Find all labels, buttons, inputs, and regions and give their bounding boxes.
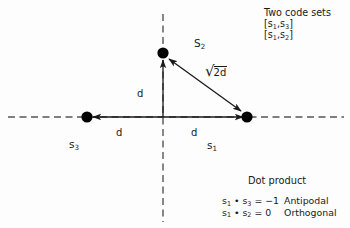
point-label-s2-symbol: S	[194, 37, 201, 49]
distance-label-diagonal: √ 2d	[205, 66, 227, 78]
distance-label-vertical: d	[137, 88, 143, 99]
code-set-two-close: ]	[289, 29, 293, 40]
dot-product-row: s1 • s2 = 0 Orthogonal	[222, 208, 337, 219]
code-set-one-close: ]	[289, 18, 293, 29]
code-set-two-sub-a: 1	[273, 34, 277, 42]
dot-product-title: Dot product	[248, 176, 306, 187]
dot-product-right-subscript: 3	[247, 200, 251, 208]
point-label-s1: s1	[207, 140, 217, 152]
distance-label-right: d	[191, 127, 197, 138]
point-s1	[241, 111, 252, 122]
dot-product-expression: s1 • s3 = −1	[222, 196, 284, 207]
dot-operator-icon: •	[234, 207, 240, 218]
code-set-two-mid: ,s	[277, 29, 285, 40]
dot-product-expression: s1 • s2 = 0	[222, 208, 284, 219]
code-sets-annotation: Two code sets [s1,s3] [s1,s2]	[264, 8, 331, 42]
code-set-one-mid: ,s	[277, 18, 285, 29]
code-set-one-sub-a: 1	[273, 23, 277, 31]
point-s2	[157, 47, 168, 58]
constellation-diagram: d d d √ 2d S2 s1 s3 Two code sets [s1,s3…	[0, 0, 350, 228]
code-set-one-sub-b: 3	[285, 23, 289, 31]
point-label-s2-subscript: 2	[201, 42, 206, 51]
dot-product-value: = 0	[254, 207, 271, 218]
dot-operator-icon: •	[234, 195, 240, 206]
dot-product-rows: s1 • s3 = −1 Antipodal s1 • s2 = 0 Ortho…	[222, 196, 337, 219]
code-sets-title: Two code sets	[264, 8, 331, 19]
dot-product-kind: Orthogonal	[284, 208, 337, 219]
code-set-two: [s1,s2]	[264, 30, 331, 41]
point-label-s3-subscript: 3	[74, 143, 79, 152]
dot-product-kind: Antipodal	[284, 196, 329, 207]
code-set-two-open: [s	[264, 29, 273, 40]
distance-label-left: d	[116, 127, 122, 138]
code-set-one: [s1,s3]	[264, 19, 331, 30]
point-label-s1-subscript: 1	[212, 144, 217, 153]
dot-product-left-subscript: 1	[227, 211, 231, 219]
point-label-s2: S2	[194, 38, 205, 50]
dot-product-value: = −1	[254, 195, 279, 206]
point-label-s3: s3	[69, 139, 79, 151]
dot-product-left-subscript: 1	[227, 200, 231, 208]
radical-body: 2d	[214, 66, 228, 78]
dot-product-row: s1 • s3 = −1 Antipodal	[222, 196, 337, 207]
dot-product-right-subscript: 2	[247, 211, 251, 219]
point-s3	[81, 111, 92, 122]
code-set-two-sub-b: 2	[285, 34, 289, 42]
code-set-one-open: [s	[264, 18, 273, 29]
